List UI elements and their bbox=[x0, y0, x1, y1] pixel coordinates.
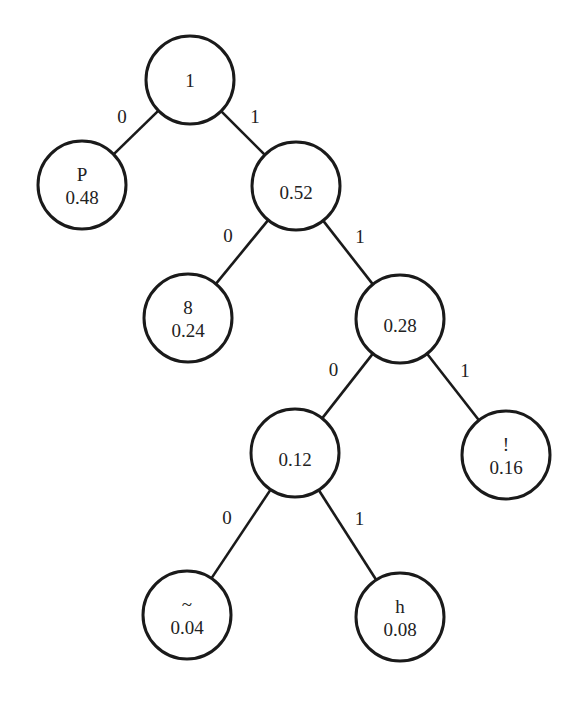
tree-node-bang: !0.16 bbox=[462, 411, 550, 499]
node-circle bbox=[38, 141, 126, 229]
huffman-tree-diagram: 01010101 1P0.480.5280.240.280.12!0.16~0.… bbox=[0, 0, 581, 701]
node-probability: 0.48 bbox=[65, 187, 98, 208]
node-symbol: ! bbox=[503, 434, 509, 455]
tree-node-n052: 0.52 bbox=[252, 142, 340, 230]
edge-bit-label: 0 bbox=[329, 359, 339, 380]
tree-nodes: 1P0.480.5280.240.280.12!0.16~0.04h0.08 bbox=[38, 36, 550, 661]
edge-bit-label: 0 bbox=[222, 507, 232, 528]
node-probability: 0.08 bbox=[383, 619, 416, 640]
tree-edge bbox=[319, 490, 377, 580]
node-probability: 0.24 bbox=[171, 320, 205, 341]
tree-node-n012: 0.12 bbox=[251, 409, 339, 497]
tree-node-tilde: ~0.04 bbox=[143, 571, 231, 659]
tree-edge bbox=[427, 354, 479, 421]
node-circle bbox=[143, 571, 231, 659]
tree-node-n8: 80.24 bbox=[144, 274, 232, 362]
edge-bit-label: 1 bbox=[250, 106, 260, 127]
node-probability: 0.04 bbox=[170, 617, 204, 638]
edge-bit-label: 0 bbox=[117, 106, 127, 127]
edge-bit-label: 1 bbox=[460, 360, 470, 381]
edge-bit-label: 1 bbox=[355, 508, 365, 529]
node-symbol: 8 bbox=[183, 297, 193, 318]
node-circle bbox=[462, 411, 550, 499]
node-probability: 0.16 bbox=[489, 457, 522, 478]
tree-node-root: 1 bbox=[146, 36, 234, 124]
node-symbol: P bbox=[77, 164, 88, 185]
tree-node-p: P0.48 bbox=[38, 141, 126, 229]
edge-bit-label: 0 bbox=[223, 225, 233, 246]
node-probability: 1 bbox=[185, 70, 195, 91]
node-symbol: ~ bbox=[182, 594, 192, 615]
tree-edge bbox=[323, 221, 373, 285]
tree-edge bbox=[211, 490, 270, 579]
node-symbol: h bbox=[395, 596, 405, 617]
node-circle bbox=[144, 274, 232, 362]
tree-node-n028: 0.28 bbox=[356, 275, 444, 363]
node-circle bbox=[356, 573, 444, 661]
node-probability: 0.28 bbox=[383, 315, 416, 336]
node-probability: 0.52 bbox=[279, 182, 312, 203]
node-probability: 0.12 bbox=[278, 449, 311, 470]
tree-node-h: h0.08 bbox=[356, 573, 444, 661]
edge-bit-label: 1 bbox=[355, 226, 365, 247]
